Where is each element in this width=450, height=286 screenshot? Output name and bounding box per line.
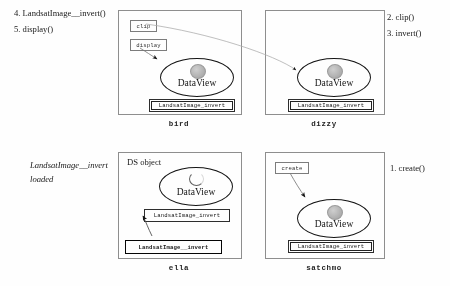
panel-satchmo: create DataView LandsatImage_invert [265, 152, 385, 259]
ds-object-label: DS object [127, 157, 161, 167]
panel-label-satchmo: satchmo [265, 264, 383, 272]
panel-label-ella: ella [118, 264, 240, 272]
panel-bird: DataView LandsatImage_invert clip displa… [118, 10, 242, 115]
panel-label-bird: bird [118, 120, 240, 128]
message-box-display: display [130, 39, 167, 51]
data-blob-icon [190, 64, 206, 79]
dataview-ellipse-satchmo: DataView [297, 199, 371, 238]
panel-dizzy: DataView LandsatImage_invert [265, 10, 385, 115]
dataview-ellipse-dizzy: DataView [297, 58, 371, 97]
annotation-step-1: 1. create() [390, 163, 425, 173]
dataview-ellipse-bird: DataView [160, 58, 234, 97]
dataview-label: DataView [161, 78, 233, 88]
dataview-label: DataView [298, 78, 370, 88]
data-blob-icon [327, 205, 343, 220]
annotation-loaded-line2: loaded [30, 174, 53, 184]
annotation-step-3: 3. invert() [387, 28, 421, 38]
figure-canvas: 4. LandsatImage__invert() 5. display() 2… [0, 0, 450, 286]
annotation-step-2: 2. clip() [387, 12, 414, 22]
message-box-clip: clip [130, 20, 157, 32]
annotation-step-5: 5. display() [14, 24, 53, 34]
class-box-bird: LandsatImage_invert [149, 99, 235, 112]
annotation-loaded-line1: LandsatImage__invert [30, 160, 108, 170]
annotation-step-4: 4. LandsatImage__invert() [14, 8, 106, 18]
message-box-create: create [275, 162, 309, 174]
dataview-label: DataView [298, 219, 370, 229]
panel-label-dizzy: dizzy [265, 120, 383, 128]
loaded-class-box-ella: LandsatImage__invert [125, 240, 222, 254]
panel-ella: DS object DataView LandsatImage_invert L… [118, 152, 242, 259]
class-box-dizzy: LandsatImage_invert [288, 99, 374, 112]
data-blob-icon [327, 64, 343, 79]
data-blob-icon [189, 172, 204, 186]
class-box-satchmo: LandsatImage_invert [288, 240, 374, 253]
dataview-ellipse-ella: DataView [159, 167, 233, 206]
dataview-label: DataView [160, 187, 232, 197]
class-box-ella: LandsatImage_invert [144, 209, 230, 222]
